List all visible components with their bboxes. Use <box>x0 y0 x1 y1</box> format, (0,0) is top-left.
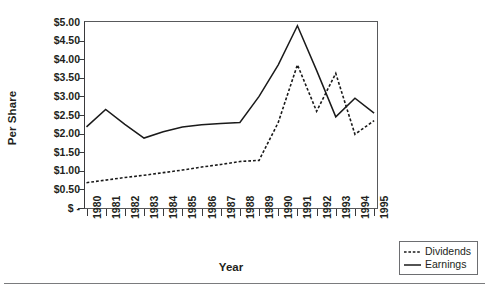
x-axis-title: Year <box>84 261 378 273</box>
legend-swatch-dotted-icon <box>404 247 421 256</box>
x-axis-tick-label: 1990 <box>283 196 294 219</box>
x-axis-tick-label: 1983 <box>149 196 160 219</box>
x-axis-tick-label: 1994 <box>360 196 371 219</box>
x-axis-tick-label: 1985 <box>187 196 198 219</box>
x-axis-tick-label: 1989 <box>264 196 275 219</box>
x-axis-tick-label: 1992 <box>322 196 333 219</box>
x-axis-tick-label: 1982 <box>130 196 141 219</box>
x-axis-tick-label: 1980 <box>92 196 103 219</box>
legend-swatch-solid-icon <box>404 260 421 269</box>
x-axis-tick-label: 1991 <box>302 196 313 219</box>
x-axis-tick-label: 1995 <box>379 196 390 219</box>
x-axis-tick-label: 1993 <box>341 196 352 219</box>
legend-label-dividends: Dividends <box>425 246 471 257</box>
legend-item-dividends: Dividends <box>404 245 471 258</box>
x-axis-tick-label: 1986 <box>207 196 218 219</box>
chart-container: Per Share $5.00$4.50$4.00$3.50$3.00$2.50… <box>0 0 489 295</box>
x-axis-tick-label: 1988 <box>245 196 256 219</box>
x-axis-tick-label: 1981 <box>111 196 122 219</box>
page-divider <box>4 283 485 284</box>
chart-legend: Dividends Earnings <box>399 241 478 275</box>
legend-label-earnings: Earnings <box>425 259 466 270</box>
x-axis-tick-label: 1984 <box>168 196 179 219</box>
legend-item-earnings: Earnings <box>404 258 471 271</box>
x-axis-tick-label: 1987 <box>226 196 237 219</box>
